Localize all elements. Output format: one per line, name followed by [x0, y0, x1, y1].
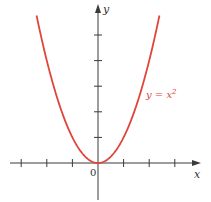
curve-label: y = x2	[145, 88, 177, 100]
y-axis: y	[94, 3, 110, 200]
x-axis: x	[10, 159, 201, 181]
x-axis-label: x	[194, 168, 201, 181]
parabola-chart: x y 0 y = x2	[0, 0, 211, 202]
x-axis-arrow-icon	[192, 160, 201, 166]
curve-label-superscript: 2	[171, 88, 177, 96]
curve-label-text: y = x	[145, 89, 172, 100]
y-axis-label: y	[102, 3, 110, 16]
origin-label: 0	[90, 167, 96, 178]
y-axis-arrow-icon	[95, 4, 101, 13]
